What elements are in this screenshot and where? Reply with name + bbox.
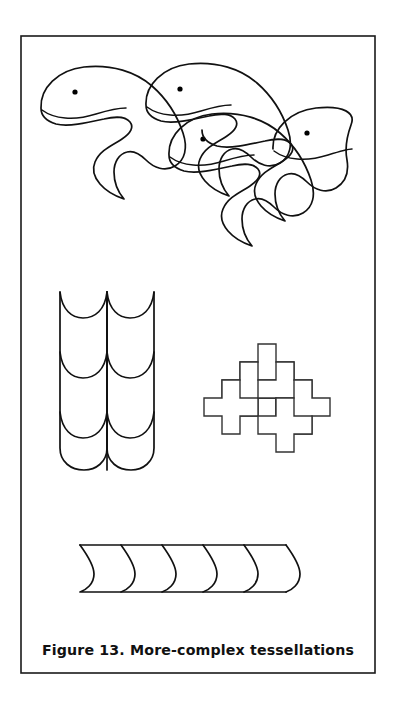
figure-page: Figure 13. More-complex tessellations — [0, 0, 394, 707]
tessellation-figure: Figure 13. More-complex tessellations — [0, 0, 394, 707]
figure-border — [21, 36, 375, 673]
whale-eye — [72, 89, 77, 94]
whale-eye — [177, 86, 182, 91]
figure-caption: Figure 13. More-complex tessellations — [42, 642, 354, 658]
whale-eye — [304, 130, 309, 135]
